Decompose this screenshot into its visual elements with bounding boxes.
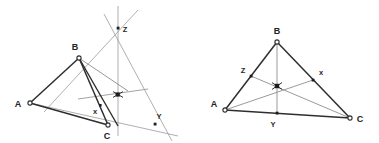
left-point-x-marker	[99, 104, 102, 107]
right-point-x-marker	[312, 79, 315, 82]
left-label-Z: Z	[123, 25, 128, 34]
right-label-Z: Z	[241, 66, 246, 75]
right-vertex-B-marker	[275, 40, 279, 44]
right-median-C-to-Z	[251, 76, 350, 118]
right-label-C: C	[357, 114, 364, 124]
right-label-B: B	[274, 26, 281, 36]
left-label-Y: Y	[156, 112, 161, 121]
left-label-C: C	[104, 131, 111, 141]
right-diagram-group: A B C Z x Y	[211, 26, 364, 129]
left-diagram-group: A B C x Z Y	[15, 6, 178, 141]
right-point-Z-marker	[250, 75, 253, 78]
left-transversal-line	[78, 89, 148, 99]
left-label-A: A	[15, 99, 22, 109]
right-label-A: A	[211, 99, 218, 109]
left-vertex-B-marker	[77, 56, 81, 60]
right-side-AC	[225, 110, 350, 118]
left-label-x: x	[93, 107, 98, 116]
right-median-A-to-x	[225, 80, 313, 110]
right-vertex-C-marker	[348, 116, 352, 120]
left-point-Z-marker	[117, 27, 120, 30]
right-label-x: x	[319, 68, 324, 77]
left-point-Y-marker	[154, 123, 157, 126]
left-label-B: B	[72, 42, 79, 52]
left-intersection-star-icon	[113, 92, 123, 98]
right-label-Y: Y	[270, 120, 275, 129]
figure-root: A B C x Z Y	[0, 0, 379, 143]
left-vertex-C-marker	[106, 123, 110, 127]
right-vertex-A-marker	[223, 108, 227, 112]
geometry-figure-svg: A B C x Z Y	[0, 0, 379, 143]
right-point-Y-marker	[276, 112, 279, 115]
left-vertex-A-marker	[28, 101, 32, 105]
left-side-AB	[30, 58, 79, 103]
left-cevian-B-through-x	[79, 58, 118, 126]
